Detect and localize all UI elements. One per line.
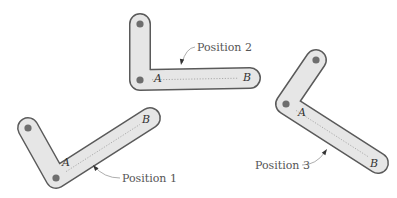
- arrowhead-icon: [179, 59, 184, 66]
- point-label-a: A: [61, 156, 70, 169]
- joint-pin-icon: [52, 174, 59, 181]
- pivot-pin-icon: [312, 56, 319, 63]
- position-label: Position 3: [255, 159, 310, 172]
- position-1: ABPosition 1: [24, 113, 176, 185]
- point-label-b: B: [141, 113, 150, 126]
- point-label-a: A: [153, 72, 162, 85]
- pivot-pin-icon: [136, 20, 143, 27]
- leader-line: [182, 47, 195, 63]
- position-label: Position 1: [122, 172, 177, 185]
- leader-line: [94, 166, 120, 178]
- joint-pin-icon: [136, 76, 143, 83]
- position-2: ABPosition 2: [136, 20, 251, 85]
- pivot-pin-icon: [24, 124, 31, 131]
- point-label-b: B: [242, 71, 251, 84]
- point-label-a: A: [297, 106, 306, 119]
- link-positions: ABPosition 1ABPosition 2ABPosition 3: [24, 20, 378, 185]
- linkage-diagram: ABPosition 1ABPosition 2ABPosition 3: [0, 0, 397, 198]
- point-label-b: B: [369, 157, 378, 170]
- joint-pin-icon: [282, 100, 289, 107]
- arrowhead-icon: [322, 148, 329, 155]
- position-label: Position 2: [197, 41, 252, 54]
- position-3: ABPosition 3: [255, 56, 378, 172]
